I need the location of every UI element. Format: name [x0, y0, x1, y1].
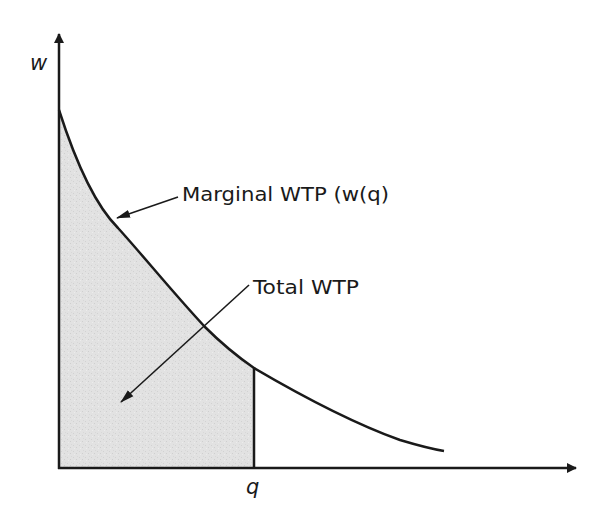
- wtp-diagram: w q Marginal WTP (w(q) Total WTP: [0, 0, 601, 519]
- total-wtp-area: [59, 110, 254, 468]
- total-wtp-label: Total WTP: [252, 276, 359, 299]
- marginal-wtp-pointer-arrow: [117, 197, 178, 218]
- x-axis-label: q: [246, 475, 259, 499]
- y-axis-label: w: [30, 51, 48, 75]
- marginal-wtp-label: Marginal WTP (w(q): [182, 183, 389, 206]
